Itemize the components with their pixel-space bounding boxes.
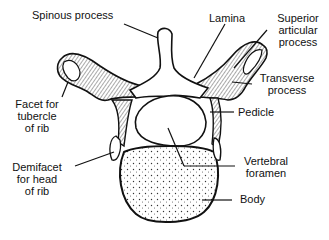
label-line: process: [254, 84, 320, 96]
spinous-process-and-lamina: [130, 28, 208, 98]
label-transverse-process: Transverse process: [254, 72, 320, 96]
label-line: for head: [6, 173, 68, 185]
label-line: of rib: [6, 122, 68, 134]
label-line: Superior: [270, 12, 326, 24]
label-line: articular: [270, 24, 326, 36]
vertebral-body-shape: [120, 146, 218, 222]
label-body: Body: [240, 193, 265, 205]
label-line: Demifacet: [6, 161, 68, 173]
label-line: process: [270, 36, 326, 48]
vertebra-diagram: Spinous process Lamina Superior articula…: [0, 0, 329, 240]
label-line: tubercle: [6, 110, 68, 122]
left-demifacet: [110, 136, 121, 160]
label-superior-articular-process: Superior articular process: [270, 12, 326, 48]
label-vertebral-foramen: Vertebral foramen: [238, 155, 294, 179]
vertebral-foramen-shape: [135, 96, 206, 146]
label-line: foramen: [238, 167, 294, 179]
label-facet-for-tubercle: Facet for tubercle of rib: [6, 98, 68, 134]
label-lamina: Lamina: [209, 12, 245, 24]
label-line: Vertebral: [238, 155, 294, 167]
label-demifacet: Demifacet for head of rib: [6, 161, 68, 197]
label-pedicle: Pedicle: [238, 106, 274, 118]
label-line: Transverse: [254, 72, 320, 84]
label-line: Facet for: [6, 98, 68, 110]
label-spinous-process: Spinous process: [32, 9, 113, 21]
label-line: of rib: [6, 185, 68, 197]
